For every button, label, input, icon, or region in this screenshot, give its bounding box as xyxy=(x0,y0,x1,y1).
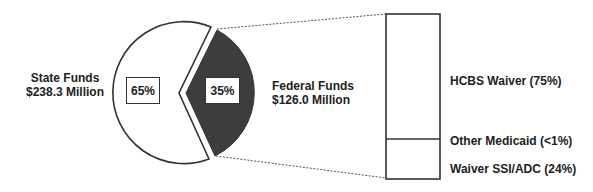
state-funds-percent-box: 65% xyxy=(126,77,160,104)
hcbs-waiver-label: HCBS Waiver (75%) xyxy=(450,74,562,88)
connector-line-top xyxy=(217,14,386,29)
connector-line-bottom xyxy=(216,156,386,178)
state-funds-amount: $238.3 Million xyxy=(24,85,106,99)
waiver-ssi-adc-label: Waiver SSI/ADC (24%) xyxy=(450,162,576,176)
state-funds-name: State Funds xyxy=(24,71,106,85)
federal-funds-amount: $126.0 Million xyxy=(272,93,354,107)
breakdown-bar xyxy=(386,14,440,179)
state-funds-percent: 65% xyxy=(131,84,155,98)
other-medicaid-label: Other Medicaid (<1%) xyxy=(450,134,572,148)
federal-funds-percent-box: 35% xyxy=(205,77,240,104)
federal-funds-label: Federal Funds $126.0 Million xyxy=(272,79,354,107)
state-funds-label: State Funds $238.3 Million xyxy=(24,71,106,99)
federal-funds-percent: 35% xyxy=(210,84,234,98)
federal-funds-name: Federal Funds xyxy=(272,79,354,93)
